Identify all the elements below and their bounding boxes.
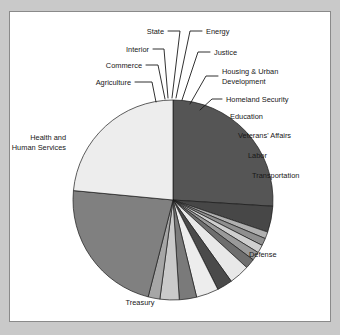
pie-slice[interactable]: [73, 100, 173, 200]
slice-label: Homeland Security: [226, 95, 289, 104]
leader-line: [153, 49, 168, 98]
slice-label: Health andHuman Services: [12, 133, 67, 152]
slice-label: Veterans' Affairs: [238, 131, 291, 140]
slice-label: Justice: [214, 48, 237, 57]
slice-label: Energy: [206, 27, 230, 36]
figure-root: Health andHuman ServicesAgricultureComme…: [0, 0, 340, 335]
slice-label: Housing & UrbanDevelopment: [222, 67, 278, 86]
slice-label: State: [147, 27, 164, 36]
leader-line: [190, 76, 218, 104]
slice-label: Education: [230, 112, 263, 121]
leader-line: [135, 82, 156, 102]
chart-panel: Health andHuman ServicesAgricultureComme…: [9, 11, 331, 322]
leader-lines: [135, 31, 222, 110]
slice-label: Labor: [248, 151, 267, 160]
leader-line: [176, 31, 202, 98]
slice-label: Commerce: [106, 61, 142, 70]
slice-label: Treasury: [126, 298, 155, 307]
pie-chart: Health andHuman ServicesAgricultureComme…: [10, 12, 330, 321]
slice-label: Interior: [126, 45, 150, 54]
slice-label: Transportation: [252, 171, 299, 180]
slice-label: Agriculture: [96, 78, 131, 87]
pie-slices: [73, 100, 273, 300]
slice-label: Defense: [249, 250, 277, 259]
